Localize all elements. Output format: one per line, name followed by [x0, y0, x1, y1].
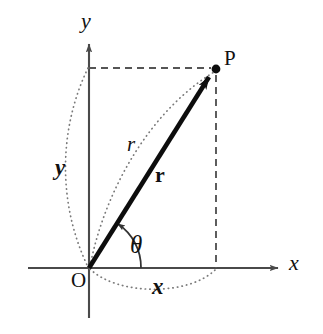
point-p-dot: [212, 65, 221, 74]
position-vector: [89, 77, 209, 268]
x-axis-label: x: [289, 252, 299, 274]
y-axis-label: y: [81, 10, 91, 32]
vector-r-label: r: [155, 164, 165, 186]
y-component-label: y: [55, 156, 65, 179]
theta-angle-label: θ: [130, 232, 142, 257]
radial-distance-label: r: [127, 134, 135, 155]
point-p-label: P: [224, 48, 236, 69]
polar-coordinate-diagram: y x O P r r y x θ: [0, 0, 323, 334]
y-measure-arc: [66, 68, 89, 267]
origin-label: O: [71, 270, 86, 291]
x-component-label: x: [152, 275, 164, 298]
